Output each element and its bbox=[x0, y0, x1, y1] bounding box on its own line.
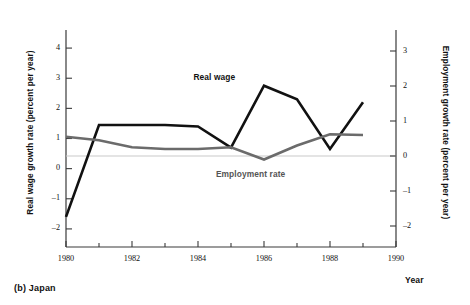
x-axis-title: Year bbox=[405, 275, 424, 285]
chart-container: Real wage growth rate (percent per year)… bbox=[0, 0, 470, 305]
y-axis-left-tick-label: –2 bbox=[38, 223, 60, 232]
x-axis-tick-label: 1982 bbox=[112, 254, 152, 263]
series-label-real-wage: Real wage bbox=[193, 72, 235, 82]
y-axis-right-tick-label: 2 bbox=[403, 81, 425, 90]
y-axis-right-tick-label: 3 bbox=[403, 46, 425, 55]
y-axis-left-tick-label: 2 bbox=[38, 103, 60, 112]
series-label-employment-rate: Employment rate bbox=[216, 169, 285, 179]
series-lines-group bbox=[66, 86, 363, 217]
y-axis-right-tick-label: –1 bbox=[403, 186, 425, 195]
y-axis-left-tick-label: 4 bbox=[38, 43, 60, 52]
series-line-real-wage bbox=[66, 86, 363, 217]
x-axis-tick-label: 1984 bbox=[178, 254, 218, 263]
y-axis-left-tick-label: 0 bbox=[38, 163, 60, 172]
y-axis-left-tick-label: 1 bbox=[38, 133, 60, 142]
y-axis-left-title: Real wage growth rate (percent per year) bbox=[26, 33, 35, 233]
x-axis-tick-label: 1990 bbox=[376, 254, 416, 263]
x-axis-tick-label: 1988 bbox=[310, 254, 350, 263]
y-axis-right-title: Employment growth rate (percent per year… bbox=[441, 33, 450, 233]
x-axis-tick-label: 1986 bbox=[244, 254, 284, 263]
y-axis-right-tick-label: 1 bbox=[403, 116, 425, 125]
y-axis-right-tick-label: 0 bbox=[403, 151, 425, 160]
figure-caption: (b) Japan bbox=[14, 283, 56, 293]
axes-group bbox=[66, 30, 396, 247]
y-axis-left-tick-label: 3 bbox=[38, 73, 60, 82]
x-axis-tick-label: 1980 bbox=[46, 254, 86, 263]
y-axis-left-tick-label: –1 bbox=[38, 193, 60, 202]
y-axis-right-tick-label: –2 bbox=[403, 221, 425, 230]
